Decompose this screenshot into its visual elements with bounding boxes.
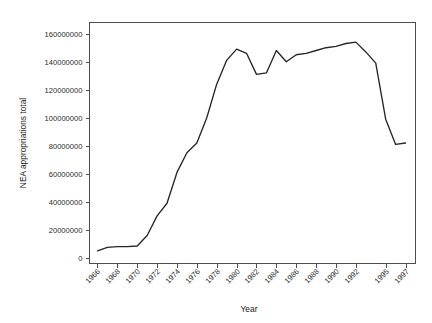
- y-tick-label: 40000000: [49, 198, 83, 207]
- x-tick-label: 1988: [303, 267, 321, 285]
- chart-figure: 0200000004000000060000000800000001000000…: [0, 0, 432, 323]
- x-tick-label: 1982: [243, 267, 261, 285]
- y-tick-label: 100000000: [44, 114, 82, 123]
- x-axis-title: Year: [241, 304, 258, 314]
- x-axis-tick-group: [98, 264, 407, 268]
- y-axis-tick-label-group: 0200000004000000060000000800000001000000…: [44, 30, 82, 263]
- data-series-line: [97, 42, 405, 251]
- y-axis-title: NEA appropriations total: [18, 98, 28, 188]
- y-tick-label: 60000000: [49, 170, 83, 179]
- y-tick-label: 160000000: [44, 30, 82, 39]
- y-tick-label: 140000000: [44, 58, 82, 67]
- y-tick-label: 80000000: [49, 142, 83, 151]
- x-tick-label: 1968: [104, 267, 122, 285]
- x-tick-label: 1990: [323, 267, 341, 285]
- x-tick-label: 1978: [204, 267, 222, 285]
- x-tick-label: 1972: [144, 267, 162, 285]
- x-axis-tick-label-group: 1966196819701972197419761978198019821984…: [84, 267, 411, 285]
- x-tick-label: 1992: [343, 267, 361, 285]
- y-tick-label: 20000000: [49, 226, 83, 235]
- x-tick-label: 1976: [184, 267, 202, 285]
- x-tick-label: 1966: [84, 267, 102, 285]
- x-tick-label: 1986: [283, 267, 301, 285]
- plot-panel-border: [90, 23, 416, 264]
- y-axis-tick-group: [86, 35, 90, 259]
- line-chart-plot: 0200000004000000060000000800000001000000…: [0, 0, 432, 323]
- x-tick-label: 1980: [224, 267, 242, 285]
- y-tick-label: 0: [78, 254, 82, 263]
- y-tick-label: 120000000: [44, 86, 82, 95]
- x-tick-label: 1970: [124, 267, 142, 285]
- x-tick-label: 1995: [373, 267, 391, 285]
- x-tick-label: 1997: [393, 267, 411, 285]
- x-tick-label: 1974: [164, 267, 182, 285]
- x-tick-label: 1984: [263, 267, 281, 285]
